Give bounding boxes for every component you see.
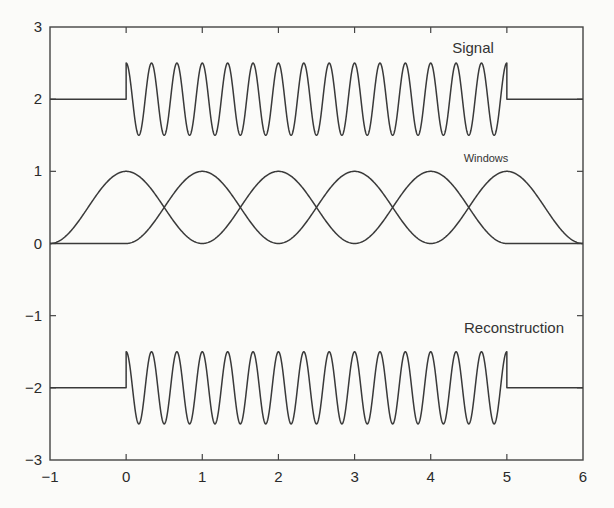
window-b-line [50, 171, 583, 243]
x-tick-label: 4 [427, 468, 435, 485]
signal-label: Signal [452, 39, 494, 56]
chart: −10123456 −3−2−10123 Signal Windows Reco… [0, 0, 614, 508]
x-tick-label: 6 [579, 468, 587, 485]
y-tick-label: 1 [34, 162, 42, 179]
signal-line [50, 63, 583, 135]
plot-curves [50, 63, 583, 424]
x-tick-label: 0 [122, 468, 130, 485]
x-tick-label: 2 [274, 468, 282, 485]
x-tick-label: 3 [350, 468, 358, 485]
x-tick-label: 5 [503, 468, 511, 485]
reconstruction-label: Reconstruction [464, 319, 564, 336]
y-tick-label: −1 [25, 307, 42, 324]
x-tick-label: 1 [198, 468, 206, 485]
x-tick-label: −1 [41, 468, 58, 485]
y-tick-label: −2 [25, 379, 42, 396]
y-tick-label: −3 [25, 451, 42, 468]
y-tick-label: 0 [34, 235, 42, 252]
windows-label: Windows [464, 152, 509, 164]
y-tick-label: 2 [34, 90, 42, 107]
reconstruction-line [50, 352, 583, 424]
y-tick-label: 3 [34, 18, 42, 35]
